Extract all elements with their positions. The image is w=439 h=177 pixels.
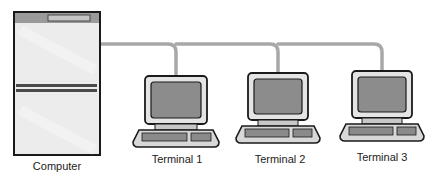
computer-icon (14, 12, 100, 155)
terminal-3-label: Terminal 3 (357, 151, 408, 163)
computer-label: Computer (33, 160, 81, 172)
network-cable (100, 44, 382, 76)
terminal-1-label: Terminal 1 (152, 153, 203, 165)
terminal-1-icon (133, 76, 219, 147)
terminal-2-icon (236, 73, 320, 143)
terminal-2-label: Terminal 2 (255, 153, 306, 165)
terminal-3-icon (340, 71, 424, 141)
